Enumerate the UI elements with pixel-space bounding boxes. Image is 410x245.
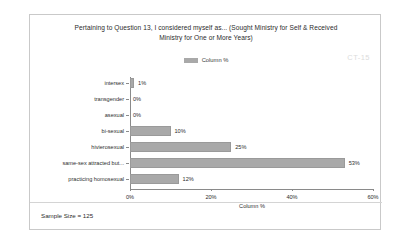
bar-row: bi-sexual10% [30,123,382,139]
bar-wrap: 1% [130,75,382,91]
bar-row: practicing homosexual12% [30,171,382,187]
bar-row: same-sex attracted but...53% [30,155,382,171]
bar-wrap: 0% [130,107,382,123]
bar-wrap: 10% [130,123,382,139]
category-label: practicing homosexual [30,176,126,182]
category-label: transgender [30,96,126,102]
x-axis-tick-mark [292,189,293,191]
legend-swatch-column-pct [184,58,198,63]
x-axis-tick-mark [130,189,131,191]
bar-value-label: 0% [133,96,141,102]
bar-wrap: 12% [130,171,382,187]
bar[interactable] [130,78,134,88]
bar-value-label: 53% [349,160,360,166]
category-label: asexual [30,112,126,118]
plot-area: intersex1%transgender0%asexual0%bi-sexua… [30,73,382,193]
bar[interactable] [130,158,345,168]
chart-title-line-2: Ministry for One or More Years) [38,33,374,43]
x-axis-title: Column % [130,203,374,209]
x-axis-tick-mark [373,189,374,191]
bar-row: transgender0% [30,91,382,107]
chart-title: Pertaining to Question 13, I considered … [38,23,374,42]
y-axis-tick [126,83,129,84]
bar-row: hivierosexual25% [30,139,382,155]
bar-row: asexual0% [30,107,382,123]
y-axis-tick [126,179,129,180]
bar-value-label: 10% [175,128,186,134]
bar[interactable] [130,174,179,184]
x-axis-tick-label: 0% [126,194,134,200]
sample-size-label: Sample Size = 125 [41,212,93,219]
category-label: same-sex attracted but... [30,160,126,166]
chart-card: Pertaining to Question 13, I considered … [29,14,381,230]
y-axis-tick [126,147,129,148]
bar-value-label: 0% [133,112,141,118]
bar[interactable] [130,142,231,152]
bar-value-label: 25% [235,144,246,150]
y-axis-tick [126,163,129,164]
category-label: bi-sexual [30,128,126,134]
category-label: intersex [30,80,126,86]
bar-value-label: 1% [138,80,146,86]
y-axis-tick [126,131,129,132]
bar[interactable] [130,126,171,136]
x-axis-tick-label: 60% [367,194,378,200]
y-axis-tick [126,115,129,116]
chart-legend: Column % [30,57,382,63]
bar-value-label: 12% [183,176,194,182]
y-axis-tick [126,99,129,100]
bar-wrap: 53% [130,155,382,171]
bar-row: intersex1% [30,75,382,91]
legend-label-column-pct: Column % [202,57,229,63]
bar-wrap: 25% [130,139,382,155]
bar-wrap: 0% [130,91,382,107]
x-axis-tick-label: 40% [286,194,297,200]
x-axis-tick-label: 20% [205,194,216,200]
footer-divider [30,202,382,203]
x-axis-line [130,189,374,190]
category-label: hivierosexual [30,144,126,150]
chart-title-line-1: Pertaining to Question 13, I considered … [38,23,374,33]
x-axis-tick-mark [211,189,212,191]
